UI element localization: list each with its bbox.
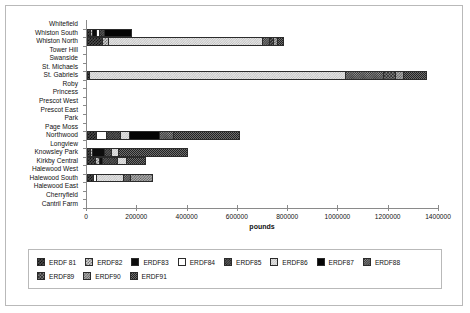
legend-swatch-icon xyxy=(178,258,186,266)
category-label: Swanside xyxy=(49,54,78,62)
y-tick xyxy=(83,191,86,192)
bar-segment[interactable] xyxy=(96,131,106,139)
x-tick-label: 400000 xyxy=(176,213,198,220)
legend-label: ERDF87 xyxy=(329,259,354,266)
bar-segment[interactable] xyxy=(92,148,104,156)
y-tick xyxy=(83,114,86,115)
bar-row[interactable] xyxy=(87,148,188,156)
x-tick-label: 1000000 xyxy=(325,213,351,220)
category-label: Northwood xyxy=(46,131,78,139)
y-tick xyxy=(83,174,86,175)
x-axis-line xyxy=(86,208,438,209)
bar-segment[interactable] xyxy=(130,174,153,182)
bar-segment[interactable] xyxy=(96,174,124,182)
x-tick xyxy=(337,205,338,211)
x-tick-label: 200000 xyxy=(125,213,147,220)
bar-segment[interactable] xyxy=(117,157,126,165)
legend-label: ERDF88 xyxy=(375,259,400,266)
bar-row[interactable] xyxy=(87,37,284,45)
bar-segment[interactable] xyxy=(111,148,118,156)
legend-item[interactable]: ERDF90 xyxy=(83,272,120,280)
legend-item[interactable]: ERDF83 xyxy=(131,258,168,266)
bar-segment[interactable] xyxy=(262,37,269,45)
legend-row: ERDF 81ERDF82ERDF83ERDF84ERDF85ERDF86ERD… xyxy=(37,255,441,269)
category-label: Cantril Farm xyxy=(42,200,78,208)
legend-item[interactable]: ERDF88 xyxy=(363,258,400,266)
legend-item[interactable]: ERDF87 xyxy=(317,258,354,266)
legend-swatch-icon xyxy=(37,258,45,266)
bar-segment[interactable] xyxy=(106,131,120,139)
bar-segment[interactable] xyxy=(159,131,174,139)
legend-swatch-icon xyxy=(130,272,138,280)
plot-area: WhitefieldWhiston SouthWhiston NorthTowe… xyxy=(20,20,444,222)
x-tick xyxy=(86,205,87,211)
y-tick xyxy=(83,199,86,200)
bar-segment[interactable] xyxy=(104,148,112,156)
bar-segment[interactable] xyxy=(383,71,395,79)
bar-segment[interactable] xyxy=(89,71,345,79)
legend-label: ERDF91 xyxy=(142,273,167,280)
bar-segment[interactable] xyxy=(345,71,383,79)
category-label: Halewood East xyxy=(34,182,78,190)
legend-swatch-icon xyxy=(224,258,232,266)
y-tick xyxy=(83,80,86,81)
bar-row[interactable] xyxy=(87,29,132,37)
legend-item[interactable]: ERDF91 xyxy=(130,272,167,280)
legend-row: ERDF89ERDF90ERDF91 xyxy=(37,269,441,283)
legend-item[interactable]: ERDF86 xyxy=(270,258,307,266)
x-tick-label: 1400000 xyxy=(425,213,451,220)
legend-item[interactable]: ERDF82 xyxy=(85,258,122,266)
bar-segment[interactable] xyxy=(87,131,96,139)
x-tick xyxy=(136,205,137,211)
x-tick xyxy=(388,205,389,211)
bar-segment[interactable] xyxy=(395,71,403,79)
bar-segment[interactable] xyxy=(129,131,159,139)
category-label: Halewood West xyxy=(32,165,78,173)
bar-row[interactable] xyxy=(87,174,153,182)
bar-segment[interactable] xyxy=(104,29,132,37)
legend-item[interactable]: ERDF85 xyxy=(224,258,261,266)
x-tick-label: 600000 xyxy=(226,213,248,220)
legend-swatch-icon xyxy=(85,258,93,266)
legend-swatch-icon xyxy=(83,272,91,280)
bar-segment[interactable] xyxy=(87,37,102,45)
y-tick xyxy=(83,46,86,47)
legend-item[interactable]: ERDF 81 xyxy=(37,258,76,266)
legend-item[interactable]: ERDF84 xyxy=(178,258,215,266)
bar-segment[interactable] xyxy=(277,37,284,45)
y-tick xyxy=(83,29,86,30)
bar-segment[interactable] xyxy=(87,157,95,165)
legend-label: ERDF83 xyxy=(143,259,168,266)
bar-row[interactable] xyxy=(87,131,240,139)
bar-row[interactable] xyxy=(87,71,427,79)
bar-segment[interactable] xyxy=(403,71,427,79)
bar-segment[interactable] xyxy=(120,131,129,139)
x-tick xyxy=(187,205,188,211)
category-label: Whitefield xyxy=(49,20,78,28)
chart-legend: ERDF 81ERDF82ERDF83ERDF84ERDF85ERDF86ERD… xyxy=(28,249,442,289)
legend-swatch-icon xyxy=(270,258,278,266)
category-label: Knowsley Park xyxy=(34,148,78,156)
category-label: Prescot East xyxy=(41,106,78,114)
bar-segment[interactable] xyxy=(108,37,261,45)
bar-row[interactable] xyxy=(87,157,146,165)
category-label: Cherryfield xyxy=(46,191,78,199)
legend-label: ERDF86 xyxy=(282,259,307,266)
y-tick xyxy=(83,182,86,183)
legend-item[interactable]: ERDF89 xyxy=(37,272,74,280)
category-label: Whiston South xyxy=(35,29,78,37)
x-tick xyxy=(287,205,288,211)
x-tick xyxy=(438,205,439,211)
category-label: Longview xyxy=(50,140,78,148)
legend-label: ERDF82 xyxy=(97,259,122,266)
category-label: Halewood South xyxy=(30,174,78,182)
bar-segment[interactable] xyxy=(118,148,188,156)
category-label: Page Moss xyxy=(45,123,78,131)
bar-segment[interactable] xyxy=(126,157,146,165)
legend-swatch-icon xyxy=(363,258,371,266)
bar-segment[interactable] xyxy=(173,131,240,139)
x-tick-label: 0 xyxy=(84,213,88,220)
y-tick xyxy=(83,88,86,89)
bar-segment[interactable] xyxy=(102,157,118,165)
category-label: Princess xyxy=(53,88,78,96)
